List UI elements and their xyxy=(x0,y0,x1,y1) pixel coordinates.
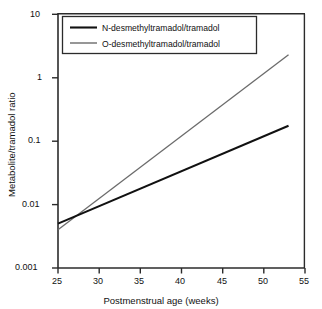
x-tick-label-55: 55 xyxy=(299,277,309,286)
x-axis-ticks xyxy=(58,268,305,274)
x-tick-label-45: 45 xyxy=(217,277,227,286)
x-tick-label-35: 35 xyxy=(134,277,144,286)
y-tick-label-10: 10 xyxy=(30,10,40,19)
legend-label-o-desmethyltramadol: O-desmethyltramadol/tramadol xyxy=(102,40,220,49)
y-axis-title: Metabolite/tramadol ratio xyxy=(7,65,17,225)
y-tick-label-0.01: 0.01 xyxy=(22,200,40,209)
x-tick-label-25: 25 xyxy=(52,277,62,286)
x-tick-label-50: 50 xyxy=(258,277,268,286)
series-line-n-desmethyltramadol xyxy=(58,126,289,224)
chart-figure: 10 1 0.1 0.01 0.001 25 30 35 40 45 50 55… xyxy=(0,0,322,309)
series-line-o-desmethyltramadol xyxy=(58,55,289,230)
x-axis-title: Postmenstrual age (weeks) xyxy=(0,296,322,306)
x-tick-label-40: 40 xyxy=(175,277,185,286)
y-tick-label-0.001: 0.001 xyxy=(15,263,38,272)
x-tick-label-30: 30 xyxy=(93,277,103,286)
legend-label-n-desmethyltramadol: N-desmethyltramadol/tramadol xyxy=(102,24,220,33)
y-axis-ticks xyxy=(52,14,58,268)
y-tick-label-1: 1 xyxy=(37,73,42,82)
y-tick-label-0.1: 0.1 xyxy=(28,136,41,145)
